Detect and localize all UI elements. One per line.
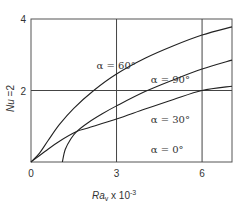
y-tick-label: 4 [20,14,26,25]
chart: 03624 α = 60°α = 90°α = 30°α = 0° Rav x … [0,0,241,205]
x-axis-label: Rav x 10-3 [92,189,136,202]
curve-annotation: α = 0° [151,144,184,155]
curve-annotations: α = 60°α = 90°α = 30°α = 0° [97,60,190,155]
curve-annotation: α = 90° [151,74,190,85]
x-tick-label: 0 [28,168,34,179]
curve-annotation: α = 30° [151,114,190,125]
curve-annotation: α = 60° [97,60,136,71]
y-tick-label: 2 [20,86,26,97]
x-tick-label: 6 [199,168,205,179]
series-line [62,60,232,162]
y-axis-label: Nu =2 [5,85,16,112]
x-tick-label: 3 [114,168,120,179]
